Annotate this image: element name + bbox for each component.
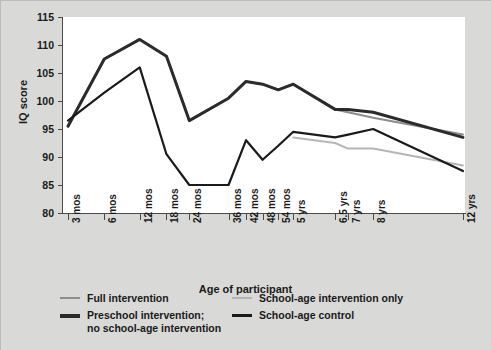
x-axis-tick <box>335 214 336 220</box>
y-axis-tick <box>58 101 63 102</box>
x-axis-tick-label: 42 mos <box>250 189 260 223</box>
chart-legend: Full intervention Preschool intervention… <box>60 292 480 340</box>
legend-item-label: School-age control <box>259 309 354 322</box>
y-axis-tick-label: 115 <box>28 12 54 22</box>
x-axis-tick-label: 24 mos <box>193 189 203 223</box>
x-axis-tick-label: 48 mos <box>267 189 277 223</box>
x-axis-tick-label: 6.5 yrs <box>339 191 349 223</box>
x-axis-tick-label: 3 mos <box>72 194 82 223</box>
x-axis-tick-label: 12 mos <box>144 189 154 223</box>
x-axis-tick-label: 36 mos <box>233 189 243 223</box>
legend-item: School-age intervention only <box>232 292 403 305</box>
x-axis-tick-label: 12 yrs <box>467 194 477 223</box>
y-axis-tick-label: 80 <box>28 208 54 218</box>
series-line <box>293 137 463 165</box>
x-axis-tick <box>229 214 230 220</box>
legend-item: Preschool intervention; no school-age in… <box>60 309 221 334</box>
figure-container: 11511010510095908580 IQ score 3 mos6 mos… <box>0 0 491 350</box>
x-axis-tick <box>166 214 167 220</box>
plot-area <box>63 17 465 213</box>
x-axis-tick <box>463 214 464 220</box>
x-axis-tick <box>140 214 141 220</box>
legend-item-label: Preschool intervention; no school-age in… <box>87 309 221 334</box>
x-axis-tick-label: 6 mos <box>108 194 118 223</box>
y-axis-tick-label: 105 <box>28 68 54 78</box>
legend-swatch-icon <box>232 314 252 317</box>
plot-svg <box>63 17 465 213</box>
x-axis-tick <box>189 214 190 220</box>
x-axis-tick-label: 8 yrs <box>377 200 387 223</box>
legend-swatch-icon <box>60 314 80 318</box>
y-axis-tick <box>58 157 63 158</box>
y-axis-tick <box>58 213 63 214</box>
y-axis-tick-label: 85 <box>28 180 54 190</box>
legend-item-label: School-age intervention only <box>259 292 403 305</box>
y-axis-tick <box>58 17 63 18</box>
x-axis-tick <box>246 214 247 220</box>
x-axis-tick-label: 5 yrs <box>297 200 307 223</box>
x-axis-tick <box>104 214 105 220</box>
y-axis-tick <box>58 185 63 186</box>
x-axis-tick-label: 7 yrs <box>352 200 362 223</box>
x-axis-tick <box>263 214 264 220</box>
legend-swatch-icon <box>60 297 80 299</box>
y-axis-tick-label: 110 <box>28 40 54 50</box>
y-axis-tick-label: 100 <box>28 96 54 106</box>
x-axis-tick <box>373 214 374 220</box>
x-axis-tick <box>68 214 69 220</box>
y-axis-tick <box>58 129 63 130</box>
x-axis-tick-label: 18 mos <box>170 189 180 223</box>
y-axis-tick <box>58 73 63 74</box>
y-axis-title: IQ score <box>17 62 29 142</box>
legend-item: Full intervention <box>60 292 169 305</box>
x-axis-line <box>62 213 466 214</box>
legend-swatch-icon <box>232 297 252 299</box>
y-axis-tick-label: 95 <box>28 124 54 134</box>
legend-item-label: Full intervention <box>87 292 169 305</box>
y-axis-tick-label: 90 <box>28 152 54 162</box>
x-axis-tick <box>293 214 294 220</box>
legend-item: School-age control <box>232 309 354 322</box>
x-axis-tick <box>278 214 279 220</box>
y-axis-tick <box>58 45 63 46</box>
x-axis-tick-label: 54 mos <box>282 189 292 223</box>
